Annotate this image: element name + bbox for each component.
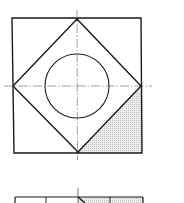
front-view bbox=[15, 188, 143, 203]
front-view-shaded-strip bbox=[78, 197, 143, 203]
vertical-centerline bbox=[77, 10, 78, 160]
vertex-bottom bbox=[77, 151, 80, 154]
vertex-right bbox=[140, 85, 143, 88]
technical-drawing bbox=[0, 0, 184, 203]
top-view bbox=[4, 10, 152, 160]
vertex-top bbox=[76, 18, 79, 21]
